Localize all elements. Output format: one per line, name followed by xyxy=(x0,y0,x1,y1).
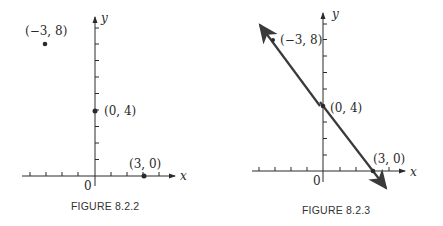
y-ticks xyxy=(95,28,99,160)
y-axis-label: y xyxy=(100,11,108,25)
y-ticks xyxy=(323,24,327,155)
point-label-3-0: (3, 0) xyxy=(129,157,161,171)
point-label-neg3-8: (−3, 8) xyxy=(280,33,322,47)
figure-8-2-2: y x 0 (−3, 8) (0, 4) (3, 0) FIGURE 8.2.2 xyxy=(22,11,187,212)
point-3-0 xyxy=(371,169,376,174)
point-label-0-4: (0, 4) xyxy=(104,104,136,118)
figure-caption: FIGURE 8.2.2 xyxy=(71,200,139,212)
point-3-0 xyxy=(142,174,147,179)
point-0-4 xyxy=(321,104,326,109)
point-label-neg3-8: (−3, 8) xyxy=(25,24,67,38)
figure-8-2-3: y x 0 (−3, 8) (0, 4) (3, 0) FIGURE 8.2.3 xyxy=(252,7,417,216)
point-0-4 xyxy=(93,109,98,114)
figure-caption: FIGURE 8.2.3 xyxy=(302,204,370,216)
origin-label: 0 xyxy=(313,174,321,188)
point-neg3-8 xyxy=(271,38,275,42)
point-neg3-8 xyxy=(43,42,48,47)
point-label-3-0: (3, 0) xyxy=(373,152,405,166)
x-axis-label: x xyxy=(410,165,417,179)
x-axis-label: x xyxy=(180,169,187,183)
y-axis-label: y xyxy=(331,7,339,21)
figures-canvas: y x 0 (−3, 8) (0, 4) (3, 0) FIGURE 8.2.2 xyxy=(0,0,443,226)
point-label-0-4: (0, 4) xyxy=(330,101,362,115)
origin-label: 0 xyxy=(84,179,92,193)
